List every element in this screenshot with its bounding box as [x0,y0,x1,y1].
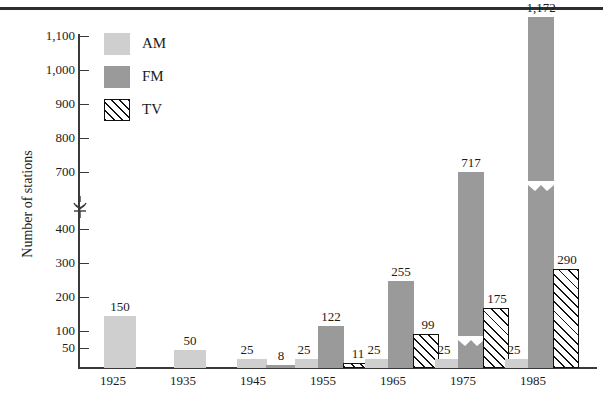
bar-value-label-1925-am: 150 [104,300,136,313]
bar-1935-am[interactable] [174,350,206,368]
bar-1965-am[interactable] [365,359,389,368]
bar-value-label-1945-am: 25 [232,343,262,356]
y-tick-label: 100 [56,324,76,337]
bar-1975-fm[interactable] [458,172,484,368]
y-tick-label: 1,100 [46,29,75,42]
x-tick-label: 1975 [438,373,488,389]
legend-label-fm: FM [142,68,164,85]
bar-1985-fm[interactable] [528,17,554,368]
x-tick-label: 1935 [158,373,208,389]
bar-value-label-1935-am: 50 [174,334,206,347]
legend-label-am: AM [142,35,166,52]
x-tick-label: 1985 [508,373,558,389]
x-tick-label: 1945 [228,373,278,389]
bar-1945-fm[interactable] [266,365,296,368]
y-tick-mark [80,36,89,37]
x-tick-label: 1925 [88,373,138,389]
y-tick-mark [80,172,89,173]
bar-break-notch-icon [458,336,484,348]
x-tick-label: 1965 [368,373,418,389]
y-tick-label: 400 [56,222,76,235]
top-rule-divider [0,7,603,10]
bar-value-label-1975-fm: 717 [455,156,487,169]
x-tick-label: 1955 [298,373,348,389]
legend-item-am: AM [104,33,184,66]
y-tick-mark [80,70,89,71]
y-tick-label: 900 [56,97,76,110]
bar-1965-fm[interactable] [388,281,414,368]
bar-value-label-1985-am: 25 [499,343,529,356]
bar-1985-tv[interactable] [553,269,579,368]
bar-1925-am[interactable] [104,316,136,368]
legend-swatch-tv-icon [104,99,130,121]
bar-value-label-1965-am: 25 [359,343,389,356]
y-tick-label: 200 [56,290,76,303]
bar-1985-am[interactable] [505,359,529,368]
bar-1975-am[interactable] [435,359,459,368]
legend-item-tv: TV [104,99,184,132]
y-tick-mark [80,331,89,332]
bar-value-label-1975-am: 25 [429,343,459,356]
bar-value-label-1975-tv: 175 [481,292,513,305]
chart-legend: AM FM TV [104,33,184,132]
y-axis-break-icon [70,196,90,218]
bar-break-notch-icon [528,181,554,193]
bar-value-label-1965-tv: 99 [413,318,443,331]
y-tick-mark [80,229,89,230]
legend-swatch-fm-icon [104,66,130,88]
y-tick-mark [80,104,89,105]
chart-page: Number of stations 1,1001,00090080070040… [0,0,603,403]
y-tick-mark [80,138,89,139]
y-tick-mark [80,348,89,349]
bar-value-label-1985-tv: 290 [551,253,583,266]
y-tick-label: 300 [56,256,76,269]
bar-value-label-1955-am: 25 [289,343,319,356]
bar-1955-fm[interactable] [318,326,344,368]
y-tick-mark [80,297,89,298]
bar-value-label-1985-fm: 1,172 [521,1,561,14]
y-tick-label: 800 [56,131,76,144]
y-tick-label: 1,000 [46,63,75,76]
legend-swatch-am-icon [104,33,130,55]
y-tick-label: 50 [62,341,75,354]
bar-1955-am[interactable] [295,359,319,368]
y-tick-mark [80,263,89,264]
y-axis-label: Number of stations [20,114,36,294]
legend-item-fm: FM [104,66,184,99]
bar-value-label-1955-fm: 122 [315,310,347,323]
bar-1945-am[interactable] [237,359,267,368]
legend-label-tv: TV [142,101,162,118]
y-tick-label: 700 [56,165,76,178]
bar-value-label-1965-fm: 255 [385,265,417,278]
